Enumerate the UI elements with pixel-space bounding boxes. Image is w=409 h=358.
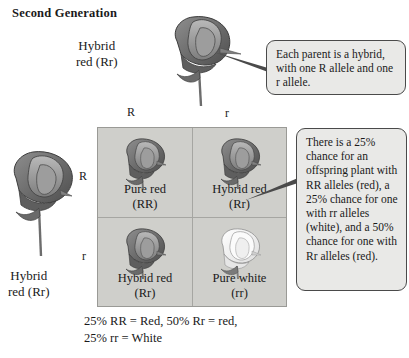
punnett-cell-genotype: (RR) bbox=[133, 197, 158, 212]
top-parent-label-line2: red (Rr) bbox=[76, 54, 118, 70]
allele-label-left-R: R bbox=[76, 169, 90, 184]
top-parent-label-line1: Hybrid bbox=[76, 38, 118, 54]
left-parent-label: Hybrid red (Rr) bbox=[8, 268, 50, 300]
cell-flower-bottom-left bbox=[120, 224, 170, 284]
allele-label-left-r: r bbox=[77, 249, 91, 264]
punnett-cell-bottom-right: Pure white (rr) bbox=[192, 217, 286, 306]
punnett-cell-genotype: (Rr) bbox=[135, 286, 156, 301]
left-parent-flower bbox=[6, 138, 86, 258]
allele-label-top-r: r bbox=[220, 106, 234, 121]
figure-caption: 25% RR = Red, 50% Rr = red, 25% rr = Whi… bbox=[84, 313, 344, 347]
pea-flower-white-icon bbox=[215, 224, 265, 280]
figure-caption-line1: 25% RR = Red, 50% Rr = red, bbox=[84, 313, 344, 330]
figure-caption-line2: 25% rr = White bbox=[84, 330, 344, 347]
pea-flower-red-icon bbox=[6, 138, 86, 258]
callout-offspring-probability-note: There is a 25% chance for an offspring p… bbox=[296, 128, 407, 291]
punnett-square-grid: Pure red (RR) Hybrid red (Rr) bbox=[97, 127, 287, 307]
callout-1-leader-line bbox=[214, 46, 270, 80]
callout-2-leader-line bbox=[246, 178, 300, 204]
second-generation-punnett-figure: Second Generation bbox=[0, 0, 409, 358]
figure-title: Second Generation bbox=[12, 6, 117, 21]
cell-flower-bottom-right bbox=[215, 224, 265, 284]
allele-label-top-R: R bbox=[124, 105, 138, 120]
pea-flower-red-icon bbox=[120, 134, 170, 190]
punnett-cell-top-left: Pure red (RR) bbox=[98, 128, 192, 217]
punnett-cell-genotype: (rr) bbox=[231, 286, 248, 301]
left-parent-label-line2: red (Rr) bbox=[8, 284, 50, 300]
pea-flower-red-icon bbox=[120, 224, 170, 280]
punnett-cell-bottom-left: Hybrid red (Rr) bbox=[98, 217, 192, 306]
top-parent-label: Hybrid red (Rr) bbox=[76, 38, 118, 70]
callout-parent-hybrid-note: Each parent is a hybrid, with one R alle… bbox=[266, 40, 406, 95]
cell-flower-top-left bbox=[120, 134, 170, 194]
left-parent-label-line1: Hybrid bbox=[8, 268, 50, 284]
